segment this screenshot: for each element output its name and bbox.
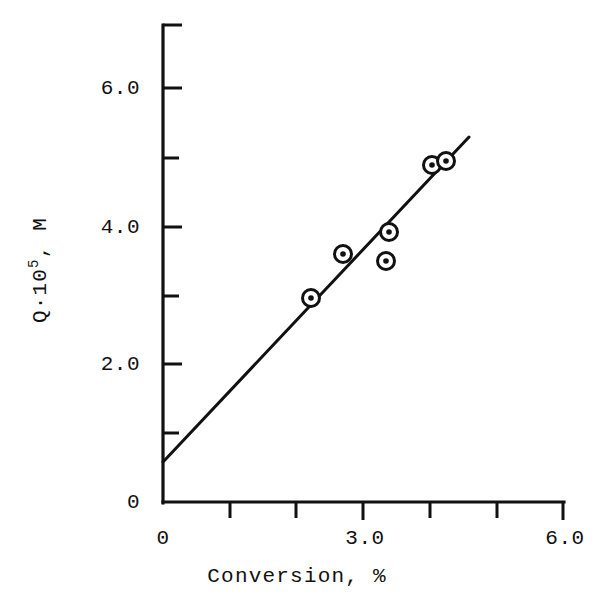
x-tick-label-6: 6.0 [545, 528, 584, 549]
x-axis-title: Conversion, % [207, 566, 386, 587]
y-axis-title-base: Q·10 [29, 268, 52, 323]
y-tick-label-0: 0 [68, 492, 140, 513]
figure-scatter-plot: 6.0 4.0 2.0 0 0 3.0 6.0 Conversion, % Q·… [0, 0, 594, 609]
data-point-2 [335, 246, 352, 263]
y-tick-label-4: 4.0 [68, 217, 140, 238]
y-tick-label-6: 6.0 [68, 78, 140, 99]
x-tick-label-3: 3.0 [345, 528, 384, 549]
y-axis-title-tail: , M [29, 217, 52, 258]
x-tick-label-0: 0 [156, 528, 169, 549]
y-tick-label-2: 2.0 [68, 354, 140, 375]
y-axis-title: Q·105, M [30, 217, 51, 323]
data-point-1 [303, 290, 320, 307]
data-point-4 [381, 224, 398, 241]
data-point-6 [438, 153, 455, 170]
y-axis-title-exponent: 5 [26, 258, 42, 268]
data-point-3 [378, 253, 395, 270]
